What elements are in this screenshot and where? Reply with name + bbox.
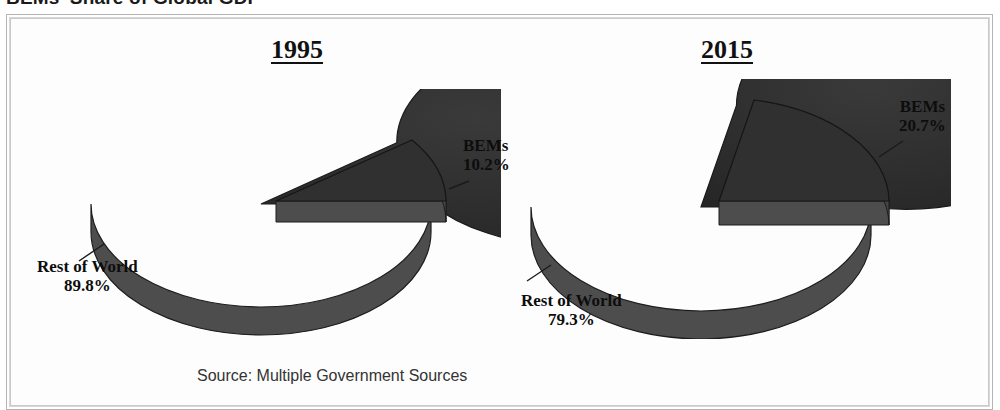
callout-rest-of-world-1995: Rest of World 89.8% [37,257,138,295]
slice-rest-of-world-1995-side [91,204,431,335]
callout-rest-2015-value: 79.3% [521,310,622,329]
callout-bems-2015-title: BEMs [900,97,945,116]
pie-1995-svg [71,89,501,339]
slice-bems-1995-side [276,201,446,222]
slice-bems-2015-side [719,201,889,225]
pie-chart-1995 [71,89,501,339]
callout-rest-2015-title: Rest of World [521,291,622,310]
callout-rest-of-world-2015: Rest of World 79.3% [521,291,622,329]
callout-bems-1995-title: BEMs [463,136,508,155]
callout-rest-1995-title: Rest of World [37,257,138,276]
chart-frame: 1995 2015 [6,14,993,410]
panel-heading-1995: 1995 [271,35,323,65]
callout-bems-1995: BEMs 10.2% [463,136,510,174]
callout-bems-2015: BEMs 20.7% [899,97,946,135]
callout-bems-1995-value: 10.2% [463,155,510,174]
callout-rest-1995-value: 89.8% [37,276,138,295]
figure-title: BEMs' Share of Global GDP [6,0,260,9]
panel-heading-2015: 2015 [701,35,753,65]
plot-area: 1995 2015 [11,19,988,405]
callout-bems-2015-value: 20.7% [899,116,946,135]
slice-bems-1995-top [276,140,446,201]
source-note: Source: Multiple Government Sources [197,367,467,385]
